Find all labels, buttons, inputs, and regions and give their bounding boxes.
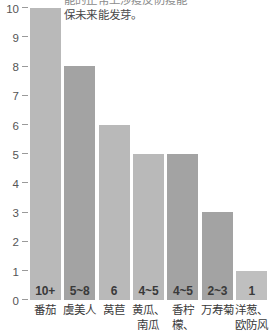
bar[interactable]: 6 [99,125,130,300]
y-tick-label: 3 [13,207,19,219]
bar-chart: 能的正常上涉疫反防疫能 保未来能发芽。 012345678910 10+5~86… [0,0,269,334]
bar-value-label: 10+ [30,284,61,298]
plot-area: 10+5~864~54~52~31 [28,8,269,300]
bar[interactable]: 5~8 [64,66,95,300]
bar[interactable]: 1 [236,271,267,300]
bar-column[interactable]: 4~5 [133,8,164,300]
y-tick-label: 6 [13,120,19,132]
y-tick-label: 5 [13,149,19,161]
category-label: 万寿菊 [199,303,235,318]
bar-value-label: 1 [236,284,267,298]
y-tick-4: 4 [13,177,28,189]
category-label: 虞美人 [61,303,97,318]
category-label: 莴苣 [96,303,132,318]
y-tick-1: 1 [13,265,28,277]
category-label: 洋葱、欧防风 [234,303,269,333]
bar[interactable]: 4~5 [167,154,198,300]
y-tick-2: 2 [13,236,28,248]
y-tick-label: 2 [13,236,19,248]
category-axis: 番茄虞美人莴苣黄瓜、南瓜香柠檬、万寿菊洋葱、欧防风 [28,303,269,334]
bar[interactable]: 2~3 [202,212,233,300]
y-tick-5: 5 [13,148,28,160]
y-tick-label: 8 [13,61,19,73]
y-tick-label: 1 [13,266,19,278]
y-tick-3: 3 [13,206,28,218]
bar-value-label: 5~8 [64,284,95,298]
bar-column[interactable]: 4~5 [167,8,198,300]
y-tick-label: 7 [13,90,19,102]
bar-value-label: 4~5 [167,284,198,298]
y-tick-label: 4 [13,178,19,190]
bar-column[interactable]: 6 [99,8,130,300]
y-tick-7: 7 [13,90,28,102]
category-label: 黄瓜、南瓜 [130,303,166,333]
y-tick-10: 10 [6,2,28,14]
bar[interactable]: 10+ [30,8,61,300]
bar-column[interactable]: 2~3 [202,8,233,300]
y-tick-label: 9 [13,32,19,44]
bar-column[interactable]: 10+ [30,8,61,300]
y-tick-9: 9 [13,31,28,43]
y-tick-6: 6 [13,119,28,131]
bar-column[interactable]: 5~8 [64,8,95,300]
y-tick-0: 0 [13,294,28,306]
bar[interactable]: 4~5 [133,154,164,300]
bar-value-label: 2~3 [202,284,233,298]
y-tick-8: 8 [13,60,28,72]
bar-value-label: 4~5 [133,284,164,298]
category-label: 番茄 [27,303,63,318]
y-axis: 012345678910 [0,0,28,334]
caption-line-1: 能的正常上涉疫反防疫能 [64,0,264,8]
bar-value-label: 6 [99,284,130,298]
y-tick-label: 10 [6,3,19,15]
y-tick-label: 0 [13,295,19,307]
bar-column[interactable]: 1 [236,8,267,300]
category-label: 香柠檬、 [165,303,201,333]
